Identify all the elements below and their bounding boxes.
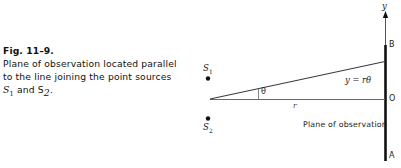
point-o-label: O [389,95,395,103]
source-1-label: S1 [203,64,213,75]
diagram-canvas [0,0,401,168]
point-b-label: B [389,41,395,49]
equation-y-equals-r-theta-label: y = rθ [345,76,371,84]
point-a-label: A [389,152,394,160]
y-axis-label: y [382,2,387,11]
source-2-dot [206,116,210,120]
plane-of-observation-label: Plane of observation [303,121,387,129]
angle-theta-label: θ [261,88,266,96]
source-2-label: S2 [203,123,213,134]
source-1-dot [206,76,210,80]
y-axis-arrowhead [383,11,388,18]
optics-geometry-diagram: y B O A S1 S2 θ r y = rθ Plane of observ… [0,0,401,168]
figure-panel: Fig. 11–9. Plane of observation located … [0,0,401,168]
radius-r-label: r [293,102,297,110]
